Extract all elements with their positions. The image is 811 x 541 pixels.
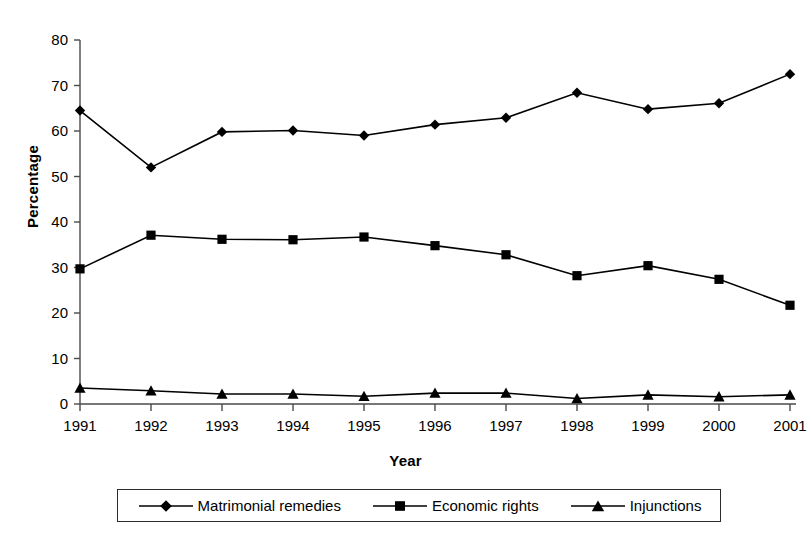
diamond-marker-icon xyxy=(137,498,195,514)
diamond-marker xyxy=(217,127,227,137)
diamond-marker xyxy=(785,69,795,79)
square-marker xyxy=(359,232,368,241)
legend-item-matrimonial-remedies: Matrimonial remedies xyxy=(137,497,341,514)
square-marker xyxy=(501,250,510,259)
square-marker-icon xyxy=(371,498,429,514)
diamond-marker xyxy=(430,119,440,129)
diamond-marker xyxy=(714,98,724,108)
square-marker xyxy=(714,275,723,284)
series-economic-rights xyxy=(75,231,794,310)
x-axis-title: Year xyxy=(0,452,811,469)
square-marker xyxy=(785,301,794,310)
line-chart: Percentage 01020304050607080 19911992199… xyxy=(0,0,811,541)
legend-item-economic-rights: Economic rights xyxy=(371,497,539,514)
square-marker xyxy=(643,261,652,270)
legend-label-injunctions: Injunctions xyxy=(630,497,702,514)
chart-legend: Matrimonial remedies Economic rights Inj… xyxy=(117,489,721,522)
diamond-marker xyxy=(501,113,511,123)
legend-label-economic-rights: Economic rights xyxy=(432,497,539,514)
diamond-marker xyxy=(288,125,298,135)
square-marker xyxy=(430,241,439,250)
series-injunctions xyxy=(74,382,795,403)
square-marker xyxy=(75,264,84,273)
triangle-marker-icon xyxy=(569,498,627,514)
series-matrimonial-remedies xyxy=(75,69,795,173)
square-marker xyxy=(217,235,226,244)
diamond-marker xyxy=(643,104,653,114)
square-marker xyxy=(288,235,297,244)
diamond-marker xyxy=(359,130,369,140)
diamond-marker xyxy=(572,88,582,98)
legend-label-matrimonial-remedies: Matrimonial remedies xyxy=(198,497,341,514)
square-marker xyxy=(146,231,155,240)
legend-item-injunctions: Injunctions xyxy=(569,497,702,514)
square-marker xyxy=(572,271,581,280)
